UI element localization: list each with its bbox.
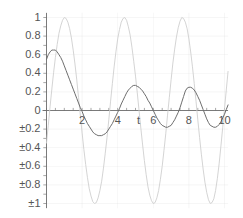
- x-axis-label: t: [137, 115, 140, 126]
- x-tick-label: 4: [104, 115, 132, 126]
- y-tick-label: 0.2: [25, 86, 40, 97]
- y-tick-label: ±1: [28, 198, 40, 209]
- y-tick-label: 0.6: [25, 49, 40, 60]
- y-tick-label: ±0.2: [19, 123, 40, 134]
- y-tick-label: ±0.8: [19, 179, 40, 190]
- y-tick-label: 0.4: [25, 67, 40, 78]
- x-tick-label: 2: [68, 115, 96, 126]
- axis-lines: [43, 13, 229, 208]
- y-tick-label: 0: [34, 105, 40, 116]
- y-tick-label: 1: [34, 12, 40, 23]
- y-tick-label: 0.8: [25, 30, 40, 41]
- chart-figure: 10.80.60.40.20±0.2±0.4±0.6±0.8±1 246810 …: [0, 0, 243, 218]
- x-tick-label: 6: [139, 115, 167, 126]
- x-tick-label: 8: [175, 115, 203, 126]
- y-tick-label: ±0.4: [19, 142, 40, 153]
- y-tick-label: ±0.6: [19, 160, 40, 171]
- x-tick-label: 10: [211, 115, 239, 126]
